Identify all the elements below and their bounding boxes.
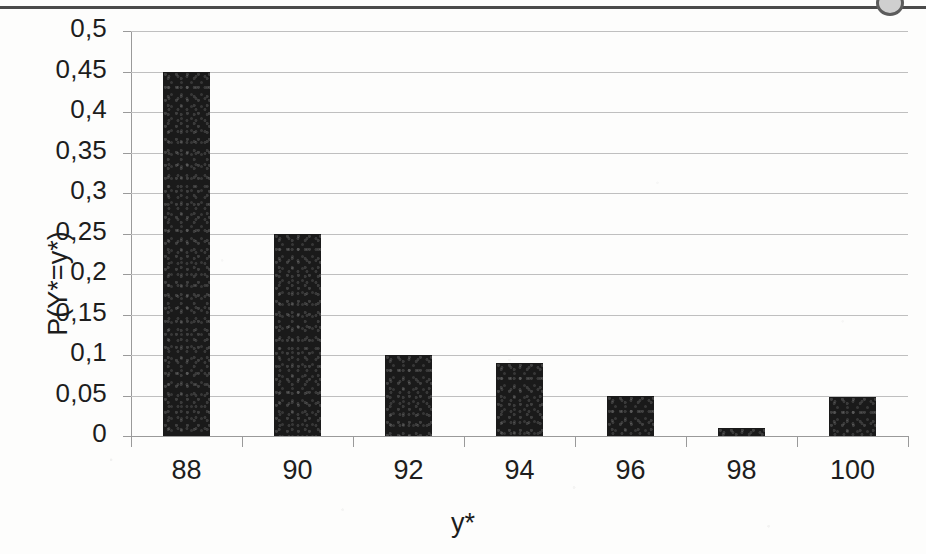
gridline — [131, 436, 908, 437]
x-axis-tick-label: 92 — [353, 455, 464, 486]
y-axis-tick — [123, 193, 131, 194]
bar — [385, 355, 432, 436]
y-axis-tick-label: 0 — [92, 418, 107, 449]
y-axis-tick-label: 0,35 — [56, 135, 107, 166]
y-axis-tick — [123, 153, 131, 154]
y-axis-tick-label: 0,5 — [70, 13, 107, 44]
bar — [496, 363, 543, 436]
bar — [274, 234, 321, 437]
x-axis-tick-label: 90 — [242, 455, 353, 486]
y-axis-tick — [123, 112, 131, 113]
bar-chart: P(Y*=y*) 0,50,450,40,350,30,250,20,150,1… — [0, 0, 926, 554]
bar — [163, 72, 210, 437]
chart-page: P(Y*=y*) 0,50,450,40,350,30,250,20,150,1… — [0, 0, 926, 554]
gridline — [131, 234, 908, 235]
x-axis-tick-label: 88 — [131, 455, 242, 486]
x-axis-tick-label: 96 — [575, 455, 686, 486]
bar — [829, 397, 876, 436]
y-axis-tick — [123, 274, 131, 275]
y-axis-tick-label: 0,05 — [56, 378, 107, 409]
x-axis-tick — [575, 436, 576, 447]
x-axis-title: y* — [0, 508, 926, 539]
bar — [718, 428, 765, 436]
y-axis-tick-label: 0,45 — [56, 54, 107, 85]
x-axis-tick-label: 98 — [686, 455, 797, 486]
y-axis-tick-label: 0,15 — [56, 297, 107, 328]
y-axis-tick-labels: 0,50,450,40,350,30,250,20,150,10,050 — [0, 0, 117, 554]
y-axis-tick-label: 0,25 — [56, 216, 107, 247]
y-axis-tick-label: 0,1 — [70, 337, 107, 368]
gridline — [131, 315, 908, 316]
x-axis-tick — [464, 436, 465, 447]
y-axis-tick-label: 0,3 — [70, 175, 107, 206]
gridline — [131, 193, 908, 194]
y-axis-tick — [123, 72, 131, 73]
y-axis-tick — [123, 315, 131, 316]
x-axis-tick-label: 100 — [797, 455, 908, 486]
y-axis-tick — [123, 234, 131, 235]
y-axis-tick — [123, 436, 131, 437]
x-axis-tick — [797, 436, 798, 447]
gridline — [131, 72, 908, 73]
gridline — [131, 153, 908, 154]
x-axis-tick — [686, 436, 687, 447]
y-axis-tick — [123, 396, 131, 397]
x-axis-tick-label: 94 — [464, 455, 575, 486]
y-axis-tick — [123, 355, 131, 356]
y-axis-tick-label: 0,4 — [70, 94, 107, 125]
x-axis-tick — [908, 436, 909, 447]
x-axis-tick — [353, 436, 354, 447]
plot-area — [131, 31, 908, 436]
x-axis-tick — [242, 436, 243, 447]
y-axis-tick-label: 0,2 — [70, 256, 107, 287]
gridline — [131, 31, 908, 32]
x-axis-tick — [131, 436, 132, 447]
y-axis-tick — [123, 31, 131, 32]
gridline — [131, 274, 908, 275]
gridline — [131, 112, 908, 113]
gridline — [131, 355, 908, 356]
bar — [607, 396, 654, 437]
